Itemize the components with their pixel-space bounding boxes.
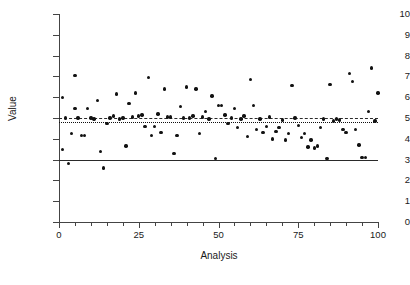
x-tick-mark-minor	[75, 222, 76, 226]
data-point	[306, 145, 309, 148]
x-tick-mark-minor	[107, 222, 108, 226]
data-point	[73, 74, 76, 77]
x-tick-mark-major	[139, 222, 140, 228]
data-point	[102, 166, 105, 169]
x-tick-mark-minor	[234, 222, 235, 226]
data-point	[64, 116, 67, 119]
data-point	[163, 87, 166, 90]
data-point	[156, 112, 159, 115]
x-tick-label: 0	[39, 230, 79, 240]
x-tick-mark-minor	[171, 222, 172, 226]
x-tick-mark-minor	[346, 222, 347, 226]
x-tick-mark-minor	[282, 222, 283, 226]
data-point	[99, 150, 102, 153]
data-point	[370, 66, 373, 69]
data-point	[182, 116, 185, 119]
data-point	[96, 99, 99, 102]
data-point	[348, 72, 351, 75]
data-point	[252, 104, 255, 107]
data-point	[201, 115, 204, 118]
data-point	[73, 107, 76, 110]
data-point	[185, 85, 188, 88]
mean-line	[59, 118, 378, 119]
x-tick-label: 25	[119, 230, 159, 240]
x-tick-mark-minor	[250, 222, 251, 226]
data-point	[191, 114, 194, 117]
data-point	[169, 115, 172, 118]
data-point	[70, 132, 73, 135]
x-tick-mark-major	[378, 222, 379, 228]
x-tick-mark-minor	[362, 222, 363, 226]
x-tick-mark-minor	[330, 222, 331, 226]
data-point	[112, 114, 115, 117]
data-point	[230, 116, 233, 119]
data-point	[309, 138, 312, 141]
data-point	[297, 124, 300, 127]
x-tick-mark-minor	[91, 222, 92, 226]
x-tick-mark-major	[59, 222, 60, 228]
data-point	[92, 117, 95, 120]
data-point	[274, 130, 277, 133]
data-point	[204, 110, 207, 113]
x-tick-mark-major	[219, 222, 220, 228]
lower-limit-line	[59, 160, 378, 161]
data-point	[131, 115, 134, 118]
data-point	[239, 117, 242, 120]
data-point	[223, 113, 226, 116]
data-point	[210, 94, 213, 97]
data-point	[344, 131, 347, 134]
data-point	[115, 92, 118, 95]
data-point	[220, 104, 223, 107]
data-point	[194, 87, 197, 90]
data-point	[153, 125, 156, 128]
data-point	[319, 126, 322, 129]
data-point	[105, 122, 108, 125]
data-point	[357, 143, 360, 146]
x-axis-label: Analysis	[59, 250, 379, 261]
data-point	[159, 131, 162, 134]
data-point	[86, 107, 89, 110]
x-tick-mark-minor	[123, 222, 124, 226]
data-point	[322, 117, 325, 120]
data-point	[293, 116, 296, 119]
x-tick-label: 100	[358, 230, 398, 240]
data-point	[67, 162, 70, 165]
y-axis-label: Value	[7, 64, 18, 154]
data-point	[150, 134, 153, 137]
data-point	[236, 126, 239, 129]
data-point	[376, 91, 379, 94]
data-point	[179, 105, 182, 108]
data-point	[367, 110, 370, 113]
x-tick-label: 75	[278, 230, 318, 240]
data-point	[265, 125, 268, 128]
data-point	[287, 132, 290, 135]
x-tick-mark-minor	[266, 222, 267, 226]
data-point	[373, 119, 376, 122]
data-point	[226, 122, 229, 125]
data-point	[172, 152, 175, 155]
x-tick-mark-minor	[203, 222, 204, 226]
data-point	[284, 138, 287, 141]
data-point	[127, 102, 130, 105]
data-point	[328, 83, 331, 86]
data-point	[143, 125, 146, 128]
data-point	[83, 134, 86, 137]
data-point	[255, 128, 258, 131]
x-tick-mark-minor	[155, 222, 156, 226]
data-point	[271, 137, 274, 140]
data-point	[124, 144, 127, 147]
data-point	[61, 96, 64, 99]
data-point	[207, 117, 210, 120]
data-point	[290, 84, 293, 87]
x-tick-label: 50	[199, 230, 239, 240]
data-point	[134, 91, 137, 94]
data-point	[175, 134, 178, 137]
data-point	[325, 157, 328, 160]
data-point	[242, 114, 245, 117]
data-point	[147, 76, 150, 79]
data-point	[268, 115, 271, 118]
data-point	[258, 117, 261, 120]
data-point	[76, 116, 79, 119]
data-point	[61, 148, 64, 151]
data-point	[303, 132, 306, 135]
